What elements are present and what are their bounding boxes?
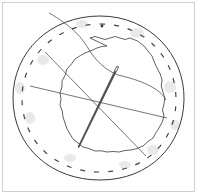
gather-shading: [15, 20, 180, 169]
thread-knot: [101, 25, 104, 28]
needle-icon: [78, 66, 119, 148]
inner-gathered-edge: [60, 37, 165, 153]
thread: [30, 13, 167, 156]
sewing-illustration: [0, 0, 199, 196]
outer-fabric-edge: [13, 16, 184, 180]
